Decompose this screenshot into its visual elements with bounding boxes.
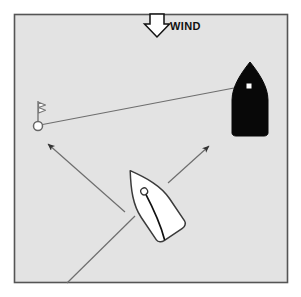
diagram-canvas: WIND: [0, 0, 301, 297]
buoy-circle: [34, 122, 43, 131]
sailing-diagram: [0, 0, 301, 297]
wind-label: WIND: [170, 21, 201, 32]
black-boat-mast-dot: [247, 84, 252, 89]
diagram-frame: [15, 15, 288, 283]
